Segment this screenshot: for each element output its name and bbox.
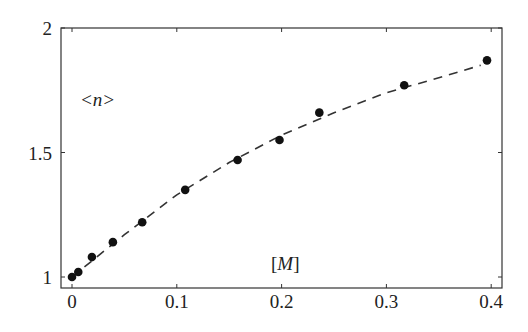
data-point: [109, 238, 118, 247]
data-point: [483, 56, 492, 65]
data-point: [181, 186, 190, 195]
y-tick-label: 1.5: [28, 143, 52, 164]
x-axis-label: [M]: [271, 253, 299, 274]
chart: 00.10.20.30.4 11.52 <n> [M]: [0, 0, 528, 332]
data-point: [400, 81, 409, 90]
y-axis-label: <n>: [80, 89, 115, 110]
data-point: [138, 218, 147, 227]
data-point: [233, 156, 242, 165]
x-tick-label: 0: [67, 291, 77, 312]
plot-frame: [61, 28, 502, 288]
x-tick-label: 0.2: [270, 291, 294, 312]
data-point: [88, 253, 97, 262]
x-tick-label: 0.4: [479, 291, 503, 312]
axis-ticks: [61, 28, 502, 288]
x-tick-label: 0.1: [165, 291, 189, 312]
data-points: [68, 56, 492, 281]
data-point: [315, 108, 324, 117]
y-tick-label: 2: [43, 18, 53, 39]
fit-curve: [72, 65, 481, 277]
y-tick-labels: 11.52: [28, 18, 52, 288]
x-tick-labels: 00.10.20.30.4: [67, 291, 503, 312]
data-point: [275, 136, 284, 145]
y-tick-label: 1: [43, 267, 53, 288]
data-point: [74, 268, 83, 277]
x-tick-label: 0.3: [375, 291, 399, 312]
